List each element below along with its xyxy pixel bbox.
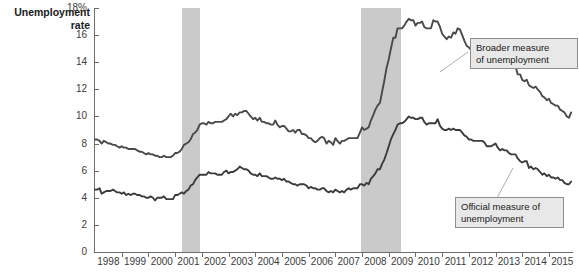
unemployment-rate-chart: Unemployment rate 024681012141618% 19981… xyxy=(0,0,579,275)
official-measure-callout: Official measure of unemployment xyxy=(455,197,564,228)
official-callout-line2: unemployment xyxy=(461,213,523,224)
official-callout-line1: Official measure of xyxy=(461,201,540,212)
broader-callout-line2: of unemployment xyxy=(476,54,549,65)
series-line xyxy=(95,116,571,200)
broader-callout-line1: Broader measure xyxy=(476,42,549,53)
broader-measure-callout: Broader measure of unemployment xyxy=(470,38,578,69)
